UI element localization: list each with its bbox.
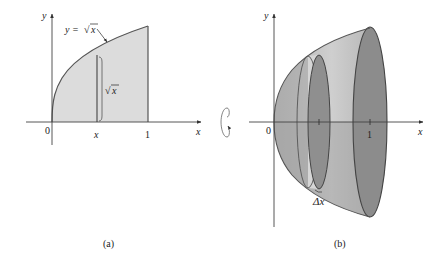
origin-label-b: 0 <box>266 125 271 136</box>
y-axis-label-b: y <box>263 10 269 21</box>
curve-label-arg: x <box>90 24 96 35</box>
panel-a: y x 0 x 1 y = √ x √ x <box>26 10 201 145</box>
rotation-arrow-icon <box>221 108 229 137</box>
tick-x-label-a: x <box>93 129 99 140</box>
tick-one-label-b: 1 <box>367 129 372 140</box>
caption-b: (b) <box>334 238 346 250</box>
strip-label-arg: x <box>111 85 117 96</box>
x-axis-label-a: x <box>195 126 201 137</box>
curve-label-root: √ <box>84 24 90 35</box>
x-axis-label-b: x <box>417 126 423 137</box>
region-under-curve <box>52 26 148 122</box>
curve-equation-label: y = √ x <box>64 24 98 35</box>
strip-label-root: √ <box>105 85 111 96</box>
panel-b: y x 0 1 Δx <box>249 10 423 227</box>
delta-x-label: Δx <box>312 195 324 207</box>
tick-one-label-a: 1 <box>145 129 150 140</box>
y-axis-label-a: y <box>41 10 47 21</box>
caption-a: (a) <box>103 238 114 250</box>
origin-label-a: 0 <box>45 125 50 136</box>
label-pointer <box>97 29 107 42</box>
rotation-indicator <box>221 108 229 137</box>
solid-of-revolution-diagram: y x 0 x 1 y = √ x √ x <box>0 0 441 256</box>
curve-label-lhs: y = <box>64 24 79 35</box>
